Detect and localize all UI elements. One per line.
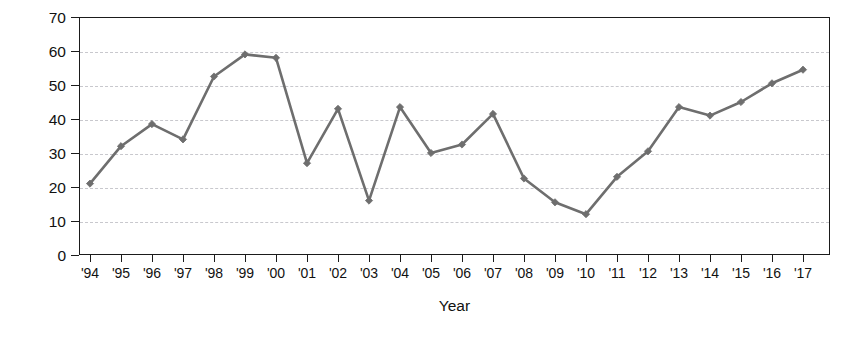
y-tick-label-20: 20 bbox=[30, 180, 66, 196]
y-tick-label-70: 70 bbox=[30, 10, 66, 26]
x-tick-label-2006: '06 bbox=[442, 266, 482, 280]
x-tick-label-2014: '14 bbox=[690, 266, 730, 280]
x-tick-mark bbox=[90, 255, 91, 262]
x-tick-label-1994: '94 bbox=[70, 266, 110, 280]
x-tick-mark bbox=[524, 255, 525, 262]
x-tick-label-1995: '95 bbox=[101, 266, 141, 280]
x-tick-label-2015: '15 bbox=[721, 266, 761, 280]
gridline bbox=[80, 86, 829, 87]
x-tick-mark bbox=[741, 255, 742, 262]
y-tick-label-60: 60 bbox=[30, 44, 66, 60]
line-chart-figure: Percentage Responding “in right directio… bbox=[0, 0, 846, 337]
x-tick-mark bbox=[493, 255, 494, 262]
y-tick-mark bbox=[71, 119, 79, 120]
x-tick-label-2007: '07 bbox=[473, 266, 513, 280]
x-tick-mark bbox=[617, 255, 618, 262]
x-tick-label-2005: '05 bbox=[411, 266, 451, 280]
x-tick-label-2003: '03 bbox=[349, 266, 389, 280]
x-tick-mark bbox=[400, 255, 401, 262]
x-tick-label-2009: '09 bbox=[535, 266, 575, 280]
y-tick-label-50: 50 bbox=[30, 78, 66, 94]
y-tick-mark bbox=[71, 85, 79, 86]
x-tick-mark bbox=[679, 255, 680, 262]
x-tick-label-2017: '17 bbox=[783, 266, 823, 280]
x-tick-label-2000: '00 bbox=[256, 266, 296, 280]
y-tick-mark bbox=[71, 187, 79, 188]
x-tick-mark bbox=[369, 255, 370, 262]
x-tick-label-2001: '01 bbox=[287, 266, 327, 280]
y-tick-label-40: 40 bbox=[30, 112, 66, 128]
y-tick-label-30: 30 bbox=[30, 146, 66, 162]
x-tick-label-1998: '98 bbox=[194, 266, 234, 280]
x-tick-label-2013: '13 bbox=[659, 266, 699, 280]
x-tick-label-2012: '12 bbox=[628, 266, 668, 280]
y-tick-label-10: 10 bbox=[30, 214, 66, 230]
x-tick-mark bbox=[276, 255, 277, 262]
x-tick-mark bbox=[338, 255, 339, 262]
x-tick-mark bbox=[803, 255, 804, 262]
x-tick-label-1996: '96 bbox=[132, 266, 172, 280]
x-tick-label-2011: '11 bbox=[597, 266, 637, 280]
y-tick-mark bbox=[71, 51, 79, 52]
x-axis-title: Year bbox=[79, 297, 830, 315]
x-tick-label-1999: '99 bbox=[225, 266, 265, 280]
plot-area bbox=[79, 17, 830, 255]
x-tick-mark bbox=[555, 255, 556, 262]
gridline bbox=[80, 154, 829, 155]
y-tick-mark bbox=[71, 153, 79, 154]
x-tick-label-2010: '10 bbox=[566, 266, 606, 280]
x-tick-mark bbox=[462, 255, 463, 262]
x-tick-label-2004: '04 bbox=[380, 266, 420, 280]
x-tick-label-1997: '97 bbox=[163, 266, 203, 280]
x-tick-label-2008: '08 bbox=[504, 266, 544, 280]
gridline bbox=[80, 188, 829, 189]
gridline bbox=[80, 52, 829, 53]
x-tick-mark bbox=[307, 255, 308, 262]
x-tick-mark bbox=[710, 255, 711, 262]
x-tick-mark bbox=[431, 255, 432, 262]
x-tick-mark bbox=[152, 255, 153, 262]
x-tick-label-2002: '02 bbox=[318, 266, 358, 280]
x-tick-mark bbox=[121, 255, 122, 262]
x-tick-label-2016: '16 bbox=[752, 266, 792, 280]
x-tick-mark bbox=[648, 255, 649, 262]
x-tick-mark bbox=[772, 255, 773, 262]
y-tick-mark bbox=[71, 17, 79, 18]
x-tick-mark bbox=[214, 255, 215, 262]
y-tick-mark bbox=[71, 255, 79, 256]
y-tick-mark bbox=[71, 221, 79, 222]
x-tick-mark bbox=[586, 255, 587, 262]
gridline bbox=[80, 222, 829, 223]
gridline bbox=[80, 120, 829, 121]
x-tick-mark bbox=[183, 255, 184, 262]
x-tick-mark bbox=[245, 255, 246, 262]
y-tick-label-0: 0 bbox=[30, 248, 66, 264]
